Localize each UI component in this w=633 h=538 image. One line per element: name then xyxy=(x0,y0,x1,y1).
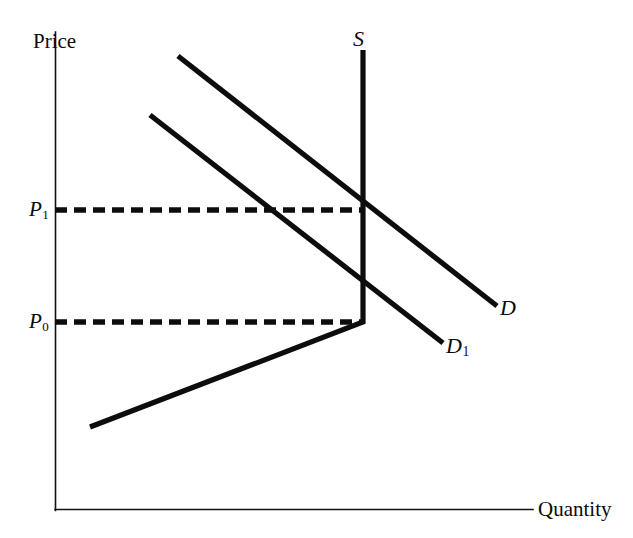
demand-curve-d xyxy=(178,56,497,306)
demand-shifted-curve-label-base: D xyxy=(446,333,462,358)
price-label-p1-base: P xyxy=(29,197,42,221)
supply-curve-s xyxy=(90,50,363,427)
price-label-p0-base: P xyxy=(29,309,42,333)
supply-demand-diagram: Price Quantity P1 P0 S D D1 xyxy=(0,0,633,538)
price-label-p0: P0 xyxy=(29,311,49,333)
demand-curve-label: D xyxy=(500,297,516,319)
demand-shifted-curve-label: D1 xyxy=(446,335,469,359)
demand-shifted-curve-label-subscript: 1 xyxy=(462,344,469,359)
price-label-p0-subscript: 0 xyxy=(42,319,49,334)
price-label-p1: P1 xyxy=(29,199,49,221)
x-axis-label: Quantity xyxy=(538,499,612,520)
supply-curve-label: S xyxy=(353,28,364,50)
y-axis-label: Price xyxy=(33,31,76,52)
price-label-p1-subscript: 1 xyxy=(42,207,49,222)
